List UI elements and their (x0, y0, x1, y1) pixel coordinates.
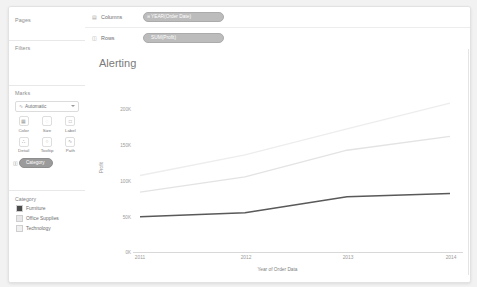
columns-pill-text: YEAR(Order Date) (151, 14, 191, 19)
marks-path-button[interactable]: ∿ Path (59, 137, 82, 154)
path-icon: ∿ (65, 137, 75, 147)
filters-shelf[interactable]: Filters (9, 41, 85, 86)
marks-buttons-row-2: ∴ Detail ○ Tooltip ∿ Path (12, 137, 82, 154)
x-tick-2012: 2012 (231, 255, 261, 260)
marks-size-label: Size (35, 128, 58, 133)
plot-right-border (468, 49, 469, 275)
marks-label-button[interactable]: □ Label (59, 116, 82, 133)
legend-label-furniture: Furniture (26, 206, 46, 211)
columns-pill-year-order-date[interactable]: ⊞ YEAR(Order Date) (143, 12, 224, 22)
marks-title: Marks (9, 86, 85, 99)
label-icon: □ (65, 116, 75, 126)
expand-plus-icon[interactable]: ⊞ (147, 14, 150, 19)
x-axis-title: Year of Order Data (85, 267, 470, 272)
worksheet-viz: Alerting Profit 200K 150K 100K 50K 0K 20… (85, 49, 470, 282)
marks-color-button[interactable]: ▦ Color (12, 116, 35, 133)
marks-color-label: Color (12, 128, 35, 133)
x-axis-line (133, 252, 463, 253)
size-icon: ◌ (42, 116, 52, 126)
rows-pill-sum-profit[interactable]: SUM(Profit) (143, 33, 224, 43)
columns-label: Columns (101, 14, 143, 20)
marks-category-pill[interactable]: Category (19, 158, 53, 168)
mark-type-dropdown[interactable]: ∿ Automatic (15, 101, 79, 112)
line-mark-icon: ∿ (19, 104, 23, 109)
series-line-technology (140, 103, 450, 176)
rows-icon: ◫ (92, 35, 97, 41)
marks-size-button[interactable]: ◌ Size (35, 116, 58, 133)
legend-label-technology: Technology (26, 226, 51, 231)
marks-detail-button[interactable]: ∴ Detail (12, 137, 35, 154)
legend-swatch-technology (16, 225, 23, 232)
marks-tooltip-label: Tooltip (35, 148, 58, 153)
pages-title: Pages (9, 13, 85, 26)
pages-shelf[interactable]: Pages (9, 13, 85, 41)
tableau-window: Pages Filters Marks ∿ Automatic ▦ Color … (8, 6, 471, 283)
rows-pill-text: SUM(Profit) (151, 35, 176, 40)
x-tick-2014: 2014 (436, 255, 466, 260)
rows-shelf[interactable]: ◫ Rows SUM(Profit) (85, 28, 470, 48)
series-line-furniture (140, 193, 450, 216)
legend-swatch-furniture (16, 205, 23, 212)
legend-item-technology[interactable]: Technology (9, 224, 85, 234)
marks-card: Marks ∿ Automatic ▦ Color ◌ Size □ Label (9, 86, 85, 191)
chevron-down-icon (71, 105, 75, 107)
legend-item-furniture[interactable]: Furniture (9, 204, 85, 214)
color-encoding-icon: ▯▯ (13, 160, 17, 166)
columns-icon: ▤ (92, 14, 97, 20)
columns-shelf[interactable]: ▤ Columns ⊞ YEAR(Order Date) (85, 7, 470, 28)
legend-item-office-supplies[interactable]: Office Supplies (9, 214, 85, 224)
detail-icon: ∴ (19, 137, 29, 147)
filters-title: Filters (9, 41, 85, 54)
series-line-office-supplies (140, 136, 450, 192)
left-sidebar: Pages Filters Marks ∿ Automatic ▦ Color … (9, 7, 86, 282)
legend-swatch-office-supplies (16, 215, 23, 222)
rows-label: Rows (101, 35, 143, 41)
marks-path-label: Path (59, 148, 82, 153)
x-tick-2013: 2013 (333, 255, 363, 260)
mark-type-value: Automatic (25, 104, 46, 109)
line-chart[interactable]: Profit 200K 150K 100K 50K 0K 2011 2012 2… (85, 49, 470, 282)
color-icon: ▦ (19, 116, 29, 126)
color-legend: Category Furniture Office Supplies Techn… (9, 191, 85, 241)
marks-buttons-row-1: ▦ Color ◌ Size □ Label (12, 116, 82, 133)
marks-label-label: Label (59, 128, 82, 133)
marks-encoding-row: ▯▯ Category (13, 158, 85, 168)
shelf-area: ▤ Columns ⊞ YEAR(Order Date) ◫ Rows SUM(… (85, 7, 470, 50)
marks-tooltip-button[interactable]: ○ Tooltip (35, 137, 58, 154)
x-tick-2011: 2011 (125, 255, 155, 260)
marks-detail-label: Detail (12, 148, 35, 153)
tooltip-icon: ○ (42, 137, 52, 147)
legend-label-office-supplies: Office Supplies (26, 216, 59, 221)
series-canvas (85, 49, 470, 282)
legend-title: Category (9, 191, 85, 204)
